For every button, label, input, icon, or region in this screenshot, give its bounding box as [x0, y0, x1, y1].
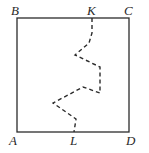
diagram-canvas: B K C A L D [0, 0, 149, 153]
label-l: L [69, 133, 77, 148]
label-d: D [125, 133, 136, 148]
square-abcd [17, 18, 129, 132]
dashed-path-k-to-l [53, 18, 100, 132]
label-k: K [86, 3, 97, 18]
label-a: A [8, 133, 17, 148]
label-c: C [124, 3, 133, 18]
label-b: B [11, 3, 19, 18]
